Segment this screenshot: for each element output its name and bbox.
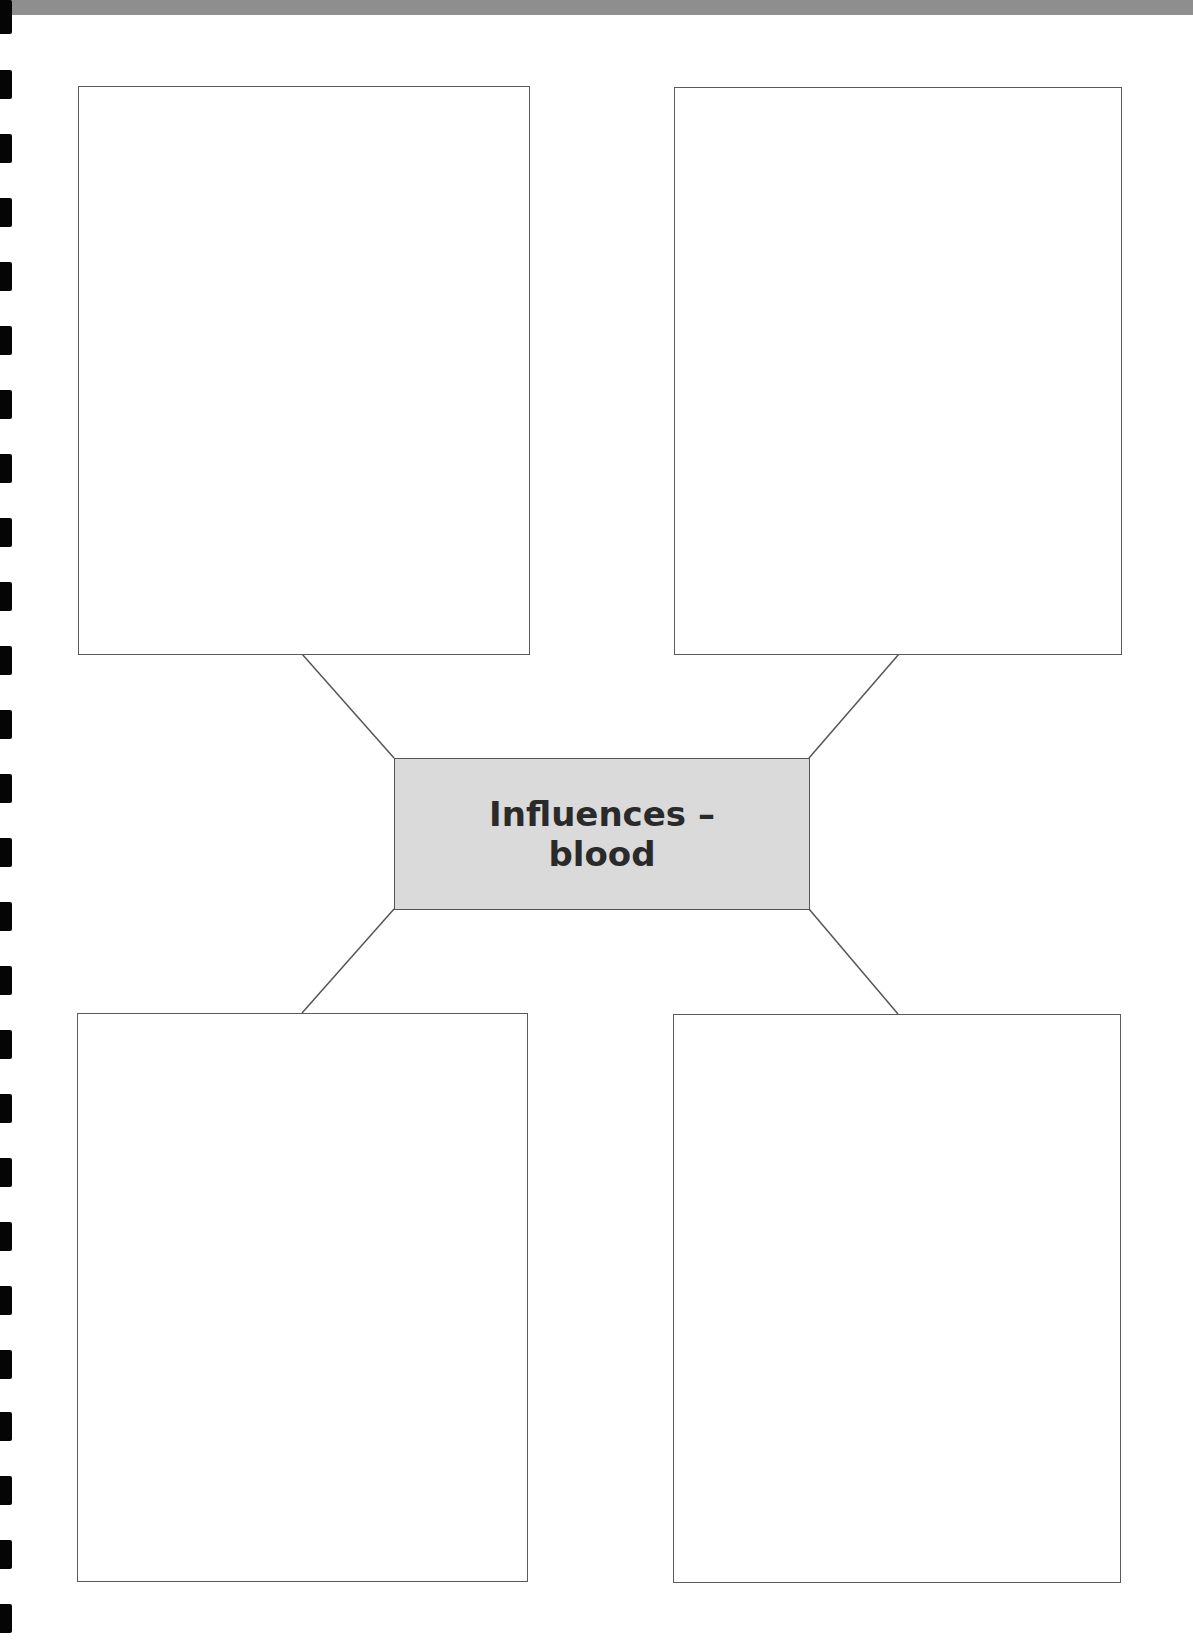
connector-top-left — [302, 654, 394, 758]
center-topic-line2: blood — [548, 834, 655, 874]
center-topic-box: Influences – blood — [394, 758, 810, 910]
center-topic-line1: Influences – — [489, 794, 715, 834]
answer-box-bottom-left[interactable] — [77, 1013, 528, 1582]
connector-bottom-left — [302, 909, 394, 1013]
answer-box-top-left[interactable] — [78, 86, 530, 655]
answer-box-top-right[interactable] — [674, 87, 1122, 655]
answer-box-bottom-right[interactable] — [673, 1014, 1121, 1583]
connector-top-right — [809, 654, 899, 758]
connector-bottom-right — [809, 909, 898, 1014]
